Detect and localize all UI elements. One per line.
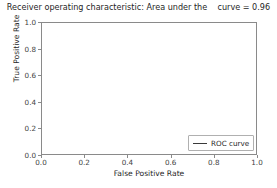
x-tick-label: 0.2 xyxy=(78,158,89,167)
x-tick-label: 0.6 xyxy=(165,158,176,167)
x-tick-label: 0.8 xyxy=(208,158,219,167)
y-tick-mark xyxy=(38,102,41,103)
y-tick-mark xyxy=(38,22,41,23)
x-axis-label: False Positive Rate xyxy=(41,169,257,178)
chart-title: Receiver operating characteristic: Area … xyxy=(0,2,277,13)
y-tick-label: 0.6 xyxy=(25,71,36,80)
roc-chart-figure: Receiver operating characteristic: Area … xyxy=(0,0,277,188)
y-tick-mark xyxy=(38,128,41,129)
y-tick-label: 0.8 xyxy=(25,44,36,53)
y-tick-label: 0.0 xyxy=(25,151,36,160)
legend-line-swatch xyxy=(193,143,207,144)
y-axis-label: True Positive Rate xyxy=(12,0,21,109)
y-tick-label: 1.0 xyxy=(25,18,36,27)
chart-legend: ROC curve xyxy=(188,135,254,151)
x-tick-label: 0.0 xyxy=(35,158,46,167)
x-tick-label: 1.0 xyxy=(251,158,262,167)
y-tick-mark xyxy=(38,75,41,76)
legend-label-roc-curve: ROC curve xyxy=(211,139,249,148)
y-tick-mark xyxy=(38,49,41,50)
y-tick-label: 0.4 xyxy=(25,97,36,106)
y-tick-label: 0.2 xyxy=(25,124,36,133)
x-tick-label: 0.4 xyxy=(122,158,133,167)
y-tick-mark xyxy=(38,155,41,156)
